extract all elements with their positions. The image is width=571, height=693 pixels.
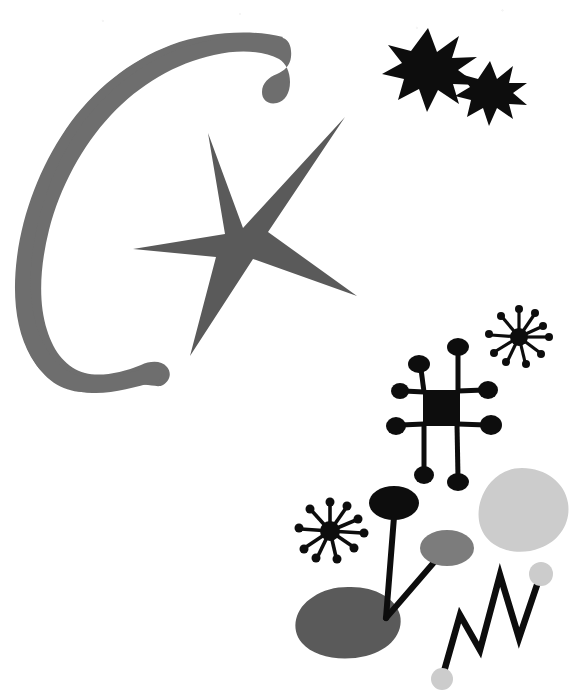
starburst-upper-tip-5 <box>537 350 545 358</box>
light-blob-shape <box>479 468 569 552</box>
starburst-lower-tip-6 <box>333 555 342 564</box>
starburst-upper-shape <box>485 305 553 368</box>
starburst-lower-tip-2 <box>343 502 352 511</box>
constellation-square-shape <box>386 338 502 491</box>
black-star-large-shape <box>382 28 478 112</box>
starburst-lower-tip-1 <box>326 498 335 507</box>
light-blob-path <box>479 468 569 552</box>
constellation-center-square <box>423 390 460 426</box>
stem-to-gray-oval <box>386 560 436 618</box>
constellation-dot-left-upper <box>391 383 409 399</box>
starburst-lower-core <box>320 521 340 541</box>
starburst-upper-tip-3 <box>539 322 547 330</box>
starburst-upper-tip-8 <box>490 349 498 357</box>
starburst-lower-tip-8 <box>300 545 309 554</box>
starburst-lower-tip-10 <box>306 505 315 514</box>
starburst-upper-core <box>510 328 528 346</box>
black-star-small-shape <box>455 61 527 126</box>
zigzag-shape <box>431 562 553 690</box>
constellation-dot-top-right <box>447 338 469 356</box>
starburst-upper-tip-10 <box>497 312 505 320</box>
starburst-lower-shape <box>295 498 369 564</box>
starburst-upper-tip-9 <box>485 330 493 338</box>
artboard: Abstract composition with crescent, star… <box>0 0 571 693</box>
starburst-upper-tip-4 <box>545 333 553 341</box>
gray-oval-stem-shape <box>420 530 474 566</box>
zigzag-dot-bottom <box>431 668 453 690</box>
crescent-shape <box>15 33 291 394</box>
crescent-path <box>16 34 291 393</box>
starburst-lower-tip-9 <box>295 524 304 533</box>
starburst-lower-tip-3 <box>354 515 363 524</box>
starburst-upper-tip-6 <box>522 360 530 368</box>
big-star-shape <box>133 117 357 356</box>
constellation-dot-left-lower <box>386 417 406 435</box>
black-oval-stem-shape <box>369 486 419 520</box>
constellation-dot-right-lower <box>480 415 502 435</box>
starburst-lower-tip-5 <box>350 544 359 553</box>
black-star-large-path <box>382 28 478 112</box>
starburst-lower-tip-7 <box>312 554 321 563</box>
zigzag-dot-top <box>529 562 553 586</box>
stem-group <box>386 517 436 618</box>
constellation-dot-right-upper <box>478 381 498 399</box>
black-star-small-path <box>455 61 527 126</box>
starburst-upper-tip-7 <box>502 358 510 366</box>
starburst-lower-tip-4 <box>360 529 369 538</box>
big-star-path <box>133 117 357 356</box>
constellation-arm-down-right <box>457 424 458 478</box>
starburst-upper-tip-1 <box>515 305 523 313</box>
constellation-dot-bottom-right <box>447 473 469 491</box>
constellation-dot-bottom-left <box>414 466 434 484</box>
artwork-svg <box>0 0 571 693</box>
starburst-upper-tip-2 <box>531 309 539 317</box>
crescent-thickness-path <box>15 33 283 394</box>
zigzag-path <box>443 575 539 675</box>
constellation-dot-top-left <box>408 355 430 373</box>
